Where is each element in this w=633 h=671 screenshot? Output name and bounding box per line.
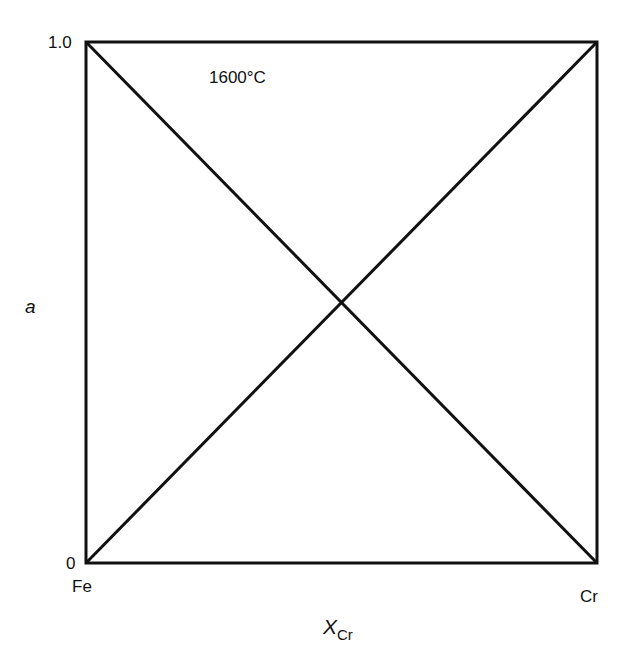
x-axis-label: XCr (323, 616, 353, 642)
y-axis-label: a (25, 297, 36, 316)
x-axis-label-main: X (323, 615, 337, 638)
y-tick-top: 1.0 (48, 34, 72, 51)
x-tick-fe: Fe (72, 578, 92, 595)
x-axis-label-sub: Cr (337, 626, 353, 643)
y-tick-bottom: 0 (66, 555, 75, 572)
plot-area (0, 0, 633, 671)
x-tick-cr: Cr (580, 588, 598, 605)
temperature-annotation: 1600°C (209, 69, 266, 86)
